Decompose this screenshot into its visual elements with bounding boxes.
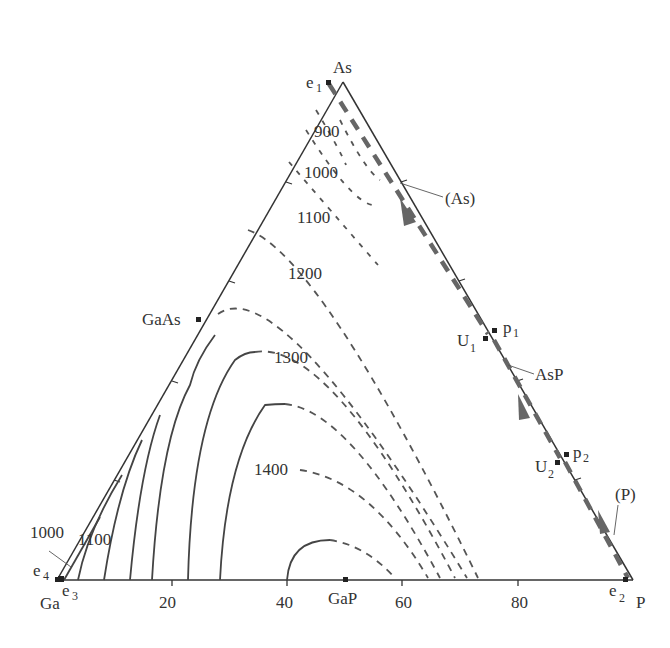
point-label-u2: U 2	[535, 457, 554, 481]
eutectic-valley	[329, 84, 628, 578]
ternary-phase-diagram: As Ga P GaAs GaP 20 40 60 80 900 1000 11…	[0, 0, 670, 648]
point-label-p1: p 1	[503, 318, 519, 340]
point-label-e3: e 3	[62, 581, 78, 603]
svg-text:2: 2	[619, 591, 625, 605]
axis-tick-20: 20	[159, 593, 176, 612]
isotherm-label-900: 900	[314, 122, 340, 141]
compound-label-gaas: GaAs	[142, 310, 181, 329]
svg-text:1: 1	[470, 341, 476, 355]
svg-text:e: e	[33, 561, 41, 580]
phase-label-p: (P)	[615, 485, 636, 504]
vertex-label-as: As	[333, 58, 352, 77]
svg-text:U: U	[457, 331, 469, 350]
axis-tick-40: 40	[276, 593, 293, 612]
point-label-e1: e 1	[306, 73, 322, 95]
right-ticks	[401, 180, 581, 480]
svg-text:4: 4	[43, 569, 49, 583]
vertex-label-p: P	[636, 593, 645, 612]
svg-text:2: 2	[583, 451, 589, 465]
isotherm-label-1100-lower: 1100	[78, 530, 111, 549]
svg-text:3: 3	[72, 589, 78, 603]
svg-text:e: e	[609, 581, 617, 600]
isotherm-label-1100: 1100	[297, 208, 330, 227]
svg-text:p: p	[573, 443, 582, 462]
svg-text:p: p	[503, 318, 512, 337]
point-label-u1: U 1	[457, 331, 476, 355]
vertex-label-ga: Ga	[40, 594, 60, 613]
ga-as-edge	[57, 82, 343, 580]
point-label-e4: e 4	[33, 561, 49, 583]
isotherm-label-1000: 1000	[304, 163, 338, 182]
svg-text:1: 1	[513, 326, 519, 340]
triangle-frame	[57, 82, 633, 580]
isotherm-label-1200: 1200	[288, 264, 322, 283]
svg-text:e: e	[306, 73, 314, 92]
isotherm-label-1000-lower: 1000	[30, 523, 64, 542]
svg-text:2: 2	[548, 467, 554, 481]
point-label-p2: p 2	[573, 443, 589, 465]
phase-label-as: (As)	[445, 189, 475, 208]
phase-label-asp: AsP	[535, 365, 563, 384]
point-label-e2: e 2	[609, 581, 625, 605]
axis-tick-60: 60	[395, 593, 412, 612]
arrow-icon	[598, 510, 610, 534]
compound-label-gap: GaP	[328, 589, 357, 608]
isotherm-label-1300: 1300	[274, 348, 308, 367]
svg-text:U: U	[535, 457, 547, 476]
svg-text:e: e	[62, 581, 70, 600]
axis-tick-80: 80	[511, 593, 528, 612]
svg-text:1: 1	[316, 81, 322, 95]
leader-lines	[49, 183, 618, 567]
isotherm-label-1400: 1400	[254, 460, 288, 479]
dashed-isotherms	[218, 110, 478, 578]
